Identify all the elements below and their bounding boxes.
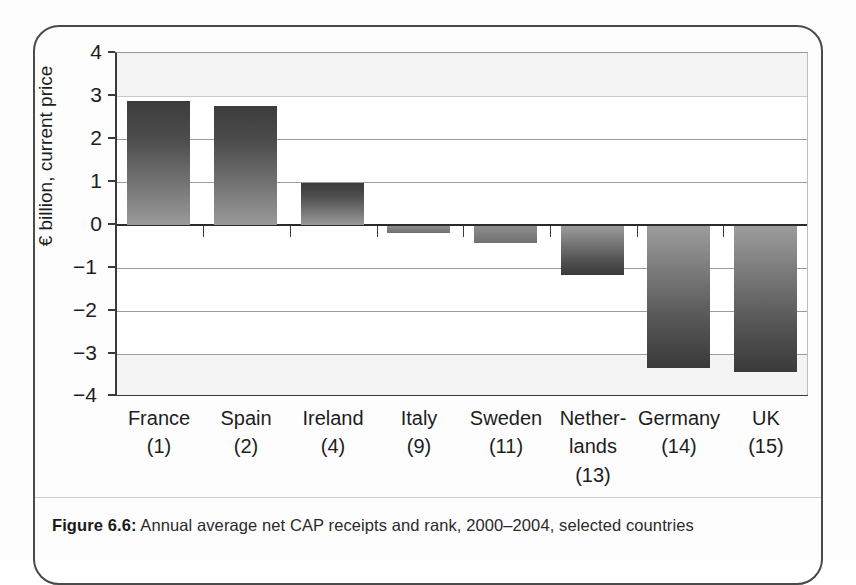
y-tick-4 [108, 51, 115, 53]
x-label-sweden: Sweden (11) [459, 404, 553, 461]
y-label-1: 1 [56, 170, 102, 191]
bar-spain [214, 106, 277, 225]
y-tick-3 [108, 94, 115, 96]
x-label-ireland-name: Ireland [302, 407, 363, 429]
y-label-4: 4 [56, 41, 102, 62]
x-label-germany-name: Germany [638, 407, 720, 429]
bar-uk [734, 226, 797, 372]
y-label-minus2: −2 [51, 299, 97, 320]
y-tick-minus3 [108, 352, 115, 354]
y-label-minus4: −4 [51, 384, 97, 405]
figure-caption: Figure 6.6: Annual average net CAP recei… [52, 516, 812, 535]
y-tick-minus1 [108, 266, 115, 268]
x-label-sweden-rank: (11) [459, 432, 553, 460]
x-label-ireland: Ireland (4) [286, 404, 380, 461]
x-label-uk: UK (15) [719, 404, 813, 461]
bar-germany [647, 226, 710, 368]
bar-italy [387, 226, 450, 233]
x-label-netherlands: Nether- lands (13) [546, 404, 640, 489]
figure-caption-text: Annual average net CAP receipts and rank… [140, 516, 694, 534]
category-tick-3 [377, 226, 378, 237]
x-label-italy: Italy (9) [372, 404, 466, 461]
x-label-italy-name: Italy [401, 407, 438, 429]
category-tick-5 [550, 226, 551, 237]
bar-ireland [301, 183, 364, 225]
y-label-minus3: −3 [51, 342, 97, 363]
x-label-spain-rank: (2) [199, 432, 293, 460]
x-label-france-name: France [128, 407, 190, 429]
x-label-germany: Germany (14) [632, 404, 726, 461]
x-label-netherlands-name2: lands [546, 432, 640, 460]
plot-area [115, 52, 808, 396]
category-tick-2 [290, 226, 291, 237]
gridline-3 [117, 96, 807, 97]
x-label-germany-rank: (14) [632, 432, 726, 460]
category-tick-6 [637, 226, 638, 237]
category-tick-7 [723, 226, 724, 237]
y-label-0: 0 [56, 213, 102, 234]
x-label-netherlands-name: Nether- [560, 407, 627, 429]
y-tick-minus4 [108, 394, 115, 396]
x-label-netherlands-rank: (13) [546, 461, 640, 489]
x-label-france-rank: (1) [112, 432, 206, 460]
y-tick-minus2 [108, 309, 115, 311]
y-label-3: 3 [56, 84, 102, 105]
x-label-spain-name: Spain [220, 407, 271, 429]
category-tick-1 [203, 226, 204, 237]
bar-netherlands [561, 226, 624, 275]
x-label-uk-rank: (15) [719, 432, 813, 460]
x-label-spain: Spain (2) [199, 404, 293, 461]
x-label-france: France (1) [112, 404, 206, 461]
y-tick-0 [108, 223, 115, 225]
category-tick-4 [463, 226, 464, 237]
figure-number: Figure 6.6: [52, 516, 137, 534]
y-label-2: 2 [56, 127, 102, 148]
bar-sweden [474, 226, 537, 243]
x-label-ireland-rank: (4) [286, 432, 380, 460]
x-label-uk-name: UK [752, 407, 780, 429]
top-band [117, 53, 807, 96]
y-tick-2 [108, 137, 115, 139]
y-tick-1 [108, 180, 115, 182]
x-label-sweden-name: Sweden [470, 407, 542, 429]
caption-divider [35, 497, 821, 498]
y-label-minus1: −1 [51, 256, 97, 277]
x-label-italy-rank: (9) [372, 432, 466, 460]
bar-france [127, 101, 190, 225]
